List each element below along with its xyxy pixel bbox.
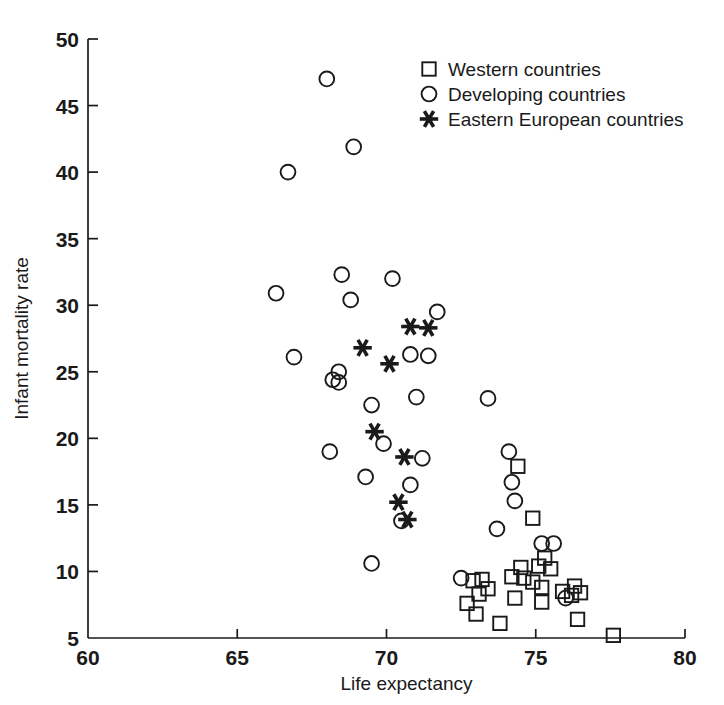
x-tick-label: 75 xyxy=(524,646,548,669)
data-point-asterisk-2-5 xyxy=(395,449,413,465)
data-point-circle-1-1 xyxy=(346,139,361,154)
y-tick-label: 10 xyxy=(56,560,79,583)
y-tick-label: 50 xyxy=(56,28,79,51)
x-tick-label: 70 xyxy=(375,646,398,669)
data-point-circle-1-16 xyxy=(364,398,379,413)
data-point-square-0-12 xyxy=(535,581,548,594)
data-point-circle-1-10 xyxy=(287,350,302,365)
data-point-circle-1-26 xyxy=(490,521,505,536)
legend-marker-asterisk xyxy=(420,111,438,127)
data-point-circle-1-2 xyxy=(281,165,296,180)
legend-label-0: Western countries xyxy=(448,59,601,80)
legend-label-2: Eastern European countries xyxy=(448,109,684,130)
data-point-asterisk-2-3 xyxy=(380,356,398,372)
y-tick-label: 20 xyxy=(56,427,79,450)
data-point-square-0-22 xyxy=(571,613,584,626)
data-point-square-0-23 xyxy=(493,617,506,630)
y-tick-label: 30 xyxy=(56,294,79,317)
data-point-square-0-18 xyxy=(508,591,521,604)
scatter-plot-canvas: 60657075805101520253035404550Life expect… xyxy=(0,0,724,705)
data-point-circle-1-19 xyxy=(415,451,430,466)
y-tick-label: 5 xyxy=(67,627,79,650)
data-point-circle-1-23 xyxy=(504,475,519,490)
legend-marker-circle xyxy=(422,87,437,102)
x-tick-label: 65 xyxy=(226,646,250,669)
y-tick-label: 25 xyxy=(56,361,80,384)
data-point-square-0-19 xyxy=(535,595,548,608)
data-point-circle-1-15 xyxy=(481,391,496,406)
y-tick-label: 35 xyxy=(56,228,80,251)
data-point-circle-1-18 xyxy=(322,444,337,459)
y-tick-label: 15 xyxy=(56,494,80,517)
data-point-circle-1-14 xyxy=(409,390,424,405)
data-point-square-0-10 xyxy=(526,575,539,588)
data-point-circle-1-4 xyxy=(385,271,400,286)
data-point-asterisk-2-2 xyxy=(353,340,371,356)
data-point-asterisk-2-1 xyxy=(419,320,437,336)
legend-label-1: Developing countries xyxy=(448,84,625,105)
chart-figure: 60657075805101520253035404550Life expect… xyxy=(0,0,724,705)
x-tick-label: 80 xyxy=(673,646,696,669)
data-point-square-0-0 xyxy=(511,460,524,473)
y-axis-title: Infant mortality rate xyxy=(11,257,32,420)
legend-marker-square xyxy=(422,62,435,75)
data-point-circle-1-8 xyxy=(403,347,418,362)
data-point-circle-1-6 xyxy=(269,286,284,301)
data-point-circle-1-20 xyxy=(501,444,516,459)
data-point-square-0-24 xyxy=(607,629,620,642)
x-tick-label: 60 xyxy=(76,646,99,669)
data-point-circle-1-0 xyxy=(319,72,334,87)
data-point-square-0-1 xyxy=(526,512,539,525)
data-point-circle-1-22 xyxy=(358,470,373,485)
data-point-circle-1-5 xyxy=(343,292,358,307)
data-point-circle-1-25 xyxy=(507,493,522,508)
data-point-asterisk-2-0 xyxy=(401,319,419,335)
data-point-circle-1-7 xyxy=(430,304,445,319)
data-point-circle-1-9 xyxy=(421,348,436,363)
x-axis-title: Life expectancy xyxy=(340,673,473,694)
data-point-circle-1-27 xyxy=(364,556,379,571)
data-point-circle-1-21 xyxy=(403,478,418,493)
data-point-asterisk-2-6 xyxy=(389,494,407,510)
y-tick-label: 40 xyxy=(56,161,79,184)
y-tick-label: 45 xyxy=(56,95,80,118)
data-point-circle-1-3 xyxy=(334,267,349,282)
